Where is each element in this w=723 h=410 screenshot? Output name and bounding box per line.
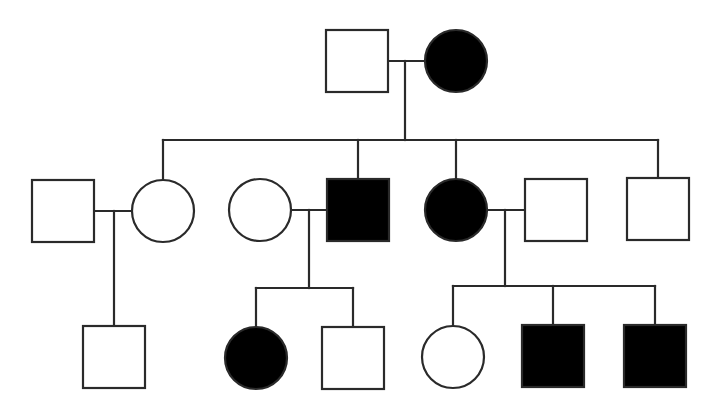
unaffected-male-symbol (322, 327, 384, 389)
unaffected-male-symbol (525, 179, 587, 241)
affected-female-symbol (425, 179, 487, 241)
affected-female-symbol (425, 30, 487, 92)
affected-male-symbol (624, 325, 686, 387)
unaffected-male-symbol (627, 178, 689, 240)
affected-male-symbol (522, 325, 584, 387)
unaffected-male-symbol (32, 180, 94, 242)
affected-female-symbol (225, 327, 287, 389)
unaffected-male-symbol (326, 30, 388, 92)
unaffected-male-symbol (83, 326, 145, 388)
unaffected-female-symbol (229, 179, 291, 241)
unaffected-female-symbol (132, 180, 194, 242)
affected-male-symbol (327, 179, 389, 241)
individuals (32, 30, 689, 389)
pedigree-diagram (0, 0, 723, 410)
unaffected-female-symbol (422, 326, 484, 388)
